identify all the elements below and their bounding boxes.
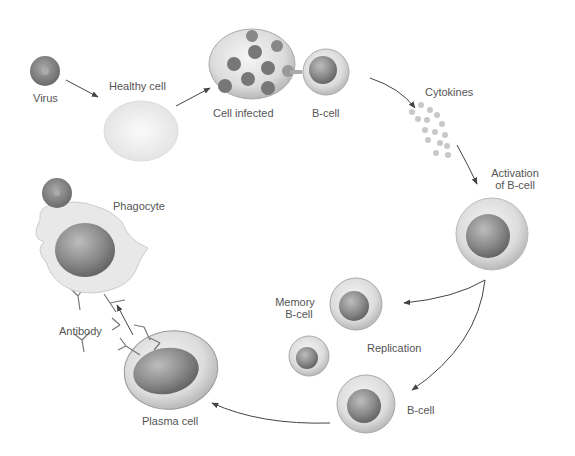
label-plasma-cell: Plasma cell	[142, 415, 198, 427]
arrow-plasma-to-phagocyte	[117, 305, 133, 335]
arrow-cytokines-to-activation	[457, 145, 477, 184]
virus-icon	[30, 56, 60, 86]
infected-cell-icon	[209, 29, 302, 99]
label-phagocyte: Phagocyte	[113, 200, 165, 212]
arrow-virus-to-healthy	[66, 80, 98, 97]
label-cell-infected: Cell infected	[213, 107, 274, 119]
label-virus: Virus	[33, 92, 58, 104]
activated-b-cell-icon	[456, 198, 528, 270]
b-cell-bottom-icon	[337, 375, 395, 433]
label-healthy-cell: Healthy cell	[109, 80, 166, 92]
healthy-cell-icon	[104, 101, 178, 161]
label-activation-line2: of B-cell	[485, 179, 545, 191]
arrow-healthy-to-infected	[176, 88, 210, 106]
cytokines-icon	[409, 102, 451, 158]
label-antibody: Antibody	[59, 325, 102, 337]
label-activation-line1: Activation	[485, 167, 545, 179]
label-memory-line2: B-cell	[268, 308, 322, 320]
immune-cycle-diagram	[0, 0, 575, 456]
b-cell-top-icon	[303, 49, 349, 95]
label-b-cell-top: B-cell	[312, 107, 340, 119]
arrow-activation-to-memory	[404, 280, 485, 303]
label-memory-b-cell: Memory B-cell	[268, 296, 322, 320]
label-b-cell-bottom: B-cell	[407, 404, 435, 416]
arrow-bcell-to-cytokines	[370, 78, 415, 108]
label-cytokines: Cytokines	[425, 86, 473, 98]
arrow-activation-to-bcell	[412, 280, 485, 390]
replicated-b-cell-icon	[289, 336, 329, 376]
phagocyte-icon	[36, 178, 148, 293]
label-memory-line1: Memory	[268, 296, 322, 308]
memory-b-cell-icon	[330, 278, 382, 330]
label-replication: Replication	[367, 342, 421, 354]
label-activation: Activation of B-cell	[485, 167, 545, 191]
plasma-cell-icon	[118, 323, 224, 416]
arrow-bcell-to-plasma	[212, 403, 330, 423]
